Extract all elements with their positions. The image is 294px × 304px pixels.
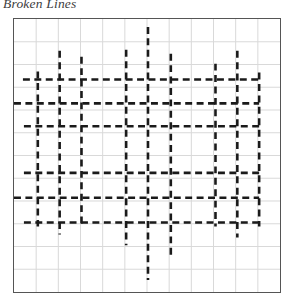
grid-lines (14, 19, 280, 292)
page-title: Broken Lines (3, 0, 77, 12)
figure-canvas: Broken Lines (0, 0, 294, 304)
plot-frame (13, 18, 281, 293)
